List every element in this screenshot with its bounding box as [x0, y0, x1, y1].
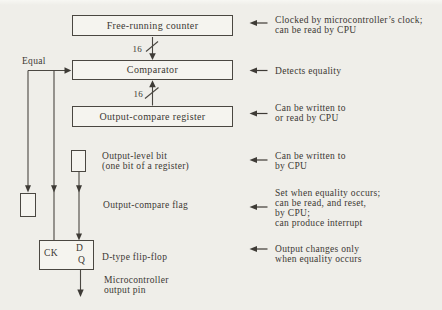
annotation-arrow-icon [250, 246, 268, 252]
equal-label: Equal [22, 56, 46, 66]
equal-arrowhead-icon [65, 67, 72, 74]
annotation-level-bit-note: Can be written to by CPU [275, 151, 346, 171]
clock-mid-arrowhead-icon [51, 185, 57, 192]
label-line: output pin [104, 285, 169, 295]
output-level-bit-label: Output-level bit (one bit of a register) [102, 151, 189, 171]
annotation-arrow-icon [250, 157, 268, 163]
annotation-flipflop-note: Output changes only when equality occurs [275, 244, 362, 264]
bus-slash-bottom-icon [145, 88, 159, 99]
annotation-line: Clocked by microcontroller’s clock; [275, 15, 423, 25]
output-compare-flag-box [20, 193, 36, 217]
q-pin-label: Q [78, 255, 85, 265]
d-flip-flop-label: D-type flip-flop [102, 252, 167, 262]
annotation-line: Output changes only [275, 244, 362, 254]
annotation-comparator-note: Detects equality [275, 66, 341, 76]
output-compare-register-box: Output-compare register [72, 106, 233, 127]
annotation-line: or read by CPU [275, 113, 346, 123]
output-level-bit-box [71, 150, 86, 172]
annotation-line: Can be written to [275, 103, 346, 113]
d-mid-arrowhead-icon [76, 185, 82, 192]
annotation-line: can produce interrupt [275, 218, 380, 228]
annotation-flag-note: Set when equality occurs; can be read, a… [275, 188, 380, 228]
bus-slash-top-icon [146, 42, 158, 52]
free-running-counter-box: Free-running counter [72, 15, 233, 36]
annotation-line: can be read by CPU [275, 25, 423, 35]
output-compare-flag-label: Output-compare flag [103, 200, 188, 210]
output-pin-arrowhead-icon [77, 290, 83, 298]
up-arrowhead-icon [149, 80, 156, 87]
label-line: (one bit of a register) [102, 161, 189, 171]
flag-arrowhead-icon [25, 185, 31, 192]
annotation-arrow-icon [250, 111, 268, 117]
annotation-line: when equality occurs [275, 254, 362, 264]
label-line: Microcontroller [104, 275, 169, 285]
annotation-arrow-icon [250, 204, 268, 210]
annotation-register-note: Can be written to or read by CPU [275, 103, 346, 123]
bus-width-label-top: 16 [125, 44, 142, 54]
ck-pin-label: CK [44, 248, 58, 258]
annotation-line: Can be written to [275, 151, 346, 161]
annotation-arrow-icon [250, 20, 268, 26]
d-pin-label: D [76, 243, 83, 253]
annotation-line: Detects equality [275, 66, 341, 76]
annotation-line: can be read, and reset, [275, 198, 380, 208]
label-line: Output-level bit [102, 151, 189, 161]
output-compare-diagram: Free-running counter Comparator Output-c… [0, 0, 442, 310]
annotation-counter-note: Clocked by microcontroller’s clock; can … [275, 15, 423, 35]
d-flip-flop-box: CK D Q [39, 240, 94, 270]
annotation-line: by CPU [275, 161, 346, 171]
annotation-line: by CPU; [275, 208, 380, 218]
bus-width-label-bottom: 16 [126, 89, 143, 99]
annotation-line: Set when equality occurs; [275, 188, 380, 198]
comparator-box: Comparator [72, 60, 233, 80]
annotation-arrow-icon [250, 68, 268, 74]
output-pin-label: Microcontroller output pin [104, 275, 169, 295]
